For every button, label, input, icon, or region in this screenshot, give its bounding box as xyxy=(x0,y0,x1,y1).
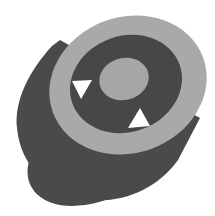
diagram-canvas: Cylindrical ring with center disc xyxy=(0,0,215,216)
cylinder-illustration xyxy=(0,0,215,216)
